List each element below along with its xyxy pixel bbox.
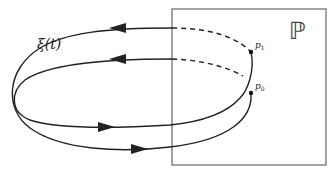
trajectory-inner-dashed xyxy=(172,59,243,76)
trajectory-outer-dashed xyxy=(172,28,251,52)
point-p0-sub: 0 xyxy=(261,85,265,92)
section-label: ℙ xyxy=(289,17,306,45)
arrow-right-icon xyxy=(131,144,148,154)
point-p1-sub: 1 xyxy=(261,44,265,51)
poincare-diagram xyxy=(0,0,333,176)
arrow-right-icon xyxy=(98,122,115,132)
arrow-left-icon xyxy=(109,54,126,64)
trajectory-inner-loop xyxy=(14,52,252,127)
point-p1 xyxy=(249,50,253,54)
point-p0 xyxy=(249,91,253,95)
arrow-left-icon xyxy=(109,23,126,33)
trajectory-label: ξ(t) xyxy=(37,36,61,52)
point-p0-label: p0 xyxy=(255,81,265,92)
point-p1-label: p1 xyxy=(255,40,265,51)
